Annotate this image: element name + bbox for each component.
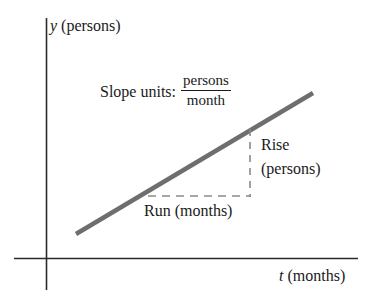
fraction-denominator: month — [185, 91, 227, 109]
slope-units-fraction: persons month — [181, 72, 231, 109]
x-axis-label: t (months) — [279, 268, 345, 284]
x-axis-unit: (months) — [287, 267, 345, 284]
rise-annotation: Rise (persons) — [261, 136, 321, 178]
fraction-numerator: persons — [181, 72, 231, 90]
y-axis-label: y (persons) — [50, 18, 121, 34]
x-axis-variable: t — [279, 267, 283, 284]
y-axis-unit: (persons) — [61, 17, 121, 34]
rise-label-line2: (persons) — [261, 160, 321, 178]
y-axis-variable: y — [50, 17, 57, 34]
run-annotation: Run (months) — [144, 203, 232, 219]
rise-label-line1: Rise — [261, 136, 321, 154]
slope-units-annotation: Slope units: persons month — [100, 72, 231, 109]
slope-units-label: Slope units: — [100, 83, 176, 101]
slope-units-diagram: y (persons) t (months) Slope units: pers… — [0, 0, 372, 302]
